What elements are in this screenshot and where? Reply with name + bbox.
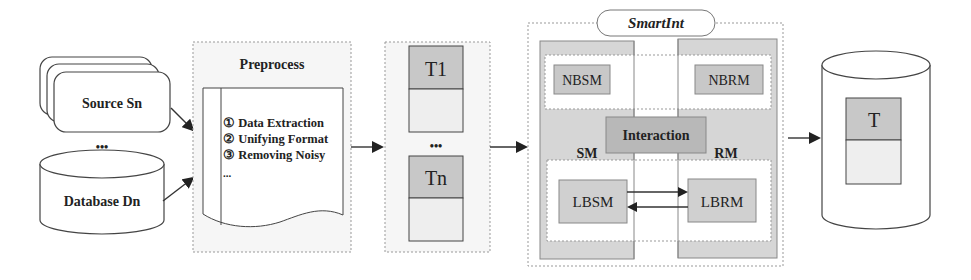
tables-ellipsis: ••• bbox=[430, 139, 443, 153]
smartint-title: SmartInt bbox=[628, 15, 685, 31]
lbrm-label: LBRM bbox=[701, 194, 744, 210]
pipeline-diagram: Source Sn ••• Database Dn Preprocess ① D… bbox=[0, 0, 971, 280]
source-label: Source Sn bbox=[82, 96, 142, 111]
lbsm-label: LBSM bbox=[573, 194, 614, 210]
source-stack bbox=[40, 57, 170, 132]
arrow-database-to-preprocess bbox=[163, 178, 193, 201]
arrow-source-to-preprocess bbox=[171, 108, 193, 130]
database-cylinder bbox=[40, 150, 164, 234]
steps-more: ... bbox=[223, 167, 232, 179]
table-tn-label: Tn bbox=[425, 167, 447, 189]
table-t1-label: T1 bbox=[425, 58, 447, 80]
nbsm-label: NBSM bbox=[562, 73, 602, 88]
step-3: ③ Removing Noisy bbox=[223, 148, 326, 162]
database-label: Database Dn bbox=[64, 194, 141, 209]
preprocess-title: Preprocess bbox=[240, 57, 305, 72]
nbrm-label: NBRM bbox=[708, 73, 750, 88]
step-2: ② Unifying Format bbox=[223, 132, 329, 146]
output-table-label: T bbox=[868, 109, 880, 131]
rm-label: RM bbox=[714, 146, 737, 161]
sm-label: SM bbox=[577, 146, 598, 161]
step-1: ① Data Extraction bbox=[223, 116, 324, 130]
interaction-label: Interaction bbox=[623, 128, 690, 143]
